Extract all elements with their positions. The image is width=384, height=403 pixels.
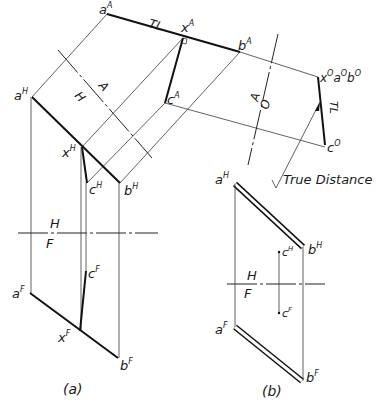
fold-label-h-b: H xyxy=(247,268,257,283)
projector-b-a-to-o xyxy=(240,52,318,77)
label-c-front-b: cF xyxy=(282,306,293,320)
label-c-top: cH xyxy=(89,181,102,197)
label-a-top-b: aH xyxy=(215,171,229,187)
label-b-top-b: bH xyxy=(308,241,322,257)
label-b-aux: bA xyxy=(238,37,252,53)
label-c-front: cF xyxy=(88,265,100,281)
fold-label-h-top: H xyxy=(50,216,60,231)
label-b-front: bF xyxy=(120,357,133,373)
line-ab-top-view-b-inner xyxy=(235,184,303,247)
caption-b: (b) xyxy=(262,383,282,399)
label-x-top: xH xyxy=(61,144,76,160)
label-x0a0b0: xOaObO xyxy=(319,69,361,85)
true-distance-label: True Distance xyxy=(283,172,373,187)
projector-c-h-to-a xyxy=(87,103,165,183)
label-b-top: bH xyxy=(124,182,138,198)
line-ab-front-view-b-inner xyxy=(235,327,302,381)
label-x-aux: xA xyxy=(180,19,194,35)
figure-b: H F aH bH cH cF aF bF (b) xyxy=(215,171,325,399)
point-c-top-b xyxy=(278,251,280,253)
fold-label-o: O xyxy=(257,98,273,111)
tl-label-top: TL xyxy=(147,16,164,33)
label-c-aux: cA xyxy=(167,91,180,107)
label-c-top-b: cH xyxy=(282,245,294,259)
label-a-top: aH xyxy=(14,87,28,103)
label-a-front-b: aF xyxy=(215,321,228,337)
line-xc-top-view xyxy=(82,147,87,183)
label-a-front: aF xyxy=(12,285,25,301)
fold-label-f-b: F xyxy=(244,286,252,301)
projector-b-h-to-a xyxy=(120,52,240,183)
label-b-front-b: bF xyxy=(306,369,319,385)
tl-label-right: TL xyxy=(327,101,340,114)
figure-a: A H A O TL TL True Distance H xyxy=(12,1,373,397)
line-ab-front-view xyxy=(30,293,118,358)
true-length-line-a xyxy=(107,14,240,52)
projector-a-h-to-a xyxy=(32,14,107,97)
true-distance-line xyxy=(318,77,325,145)
label-c0: cO xyxy=(327,139,340,155)
caption-a: (a) xyxy=(63,381,83,397)
fold-label-a: A xyxy=(95,78,112,94)
label-x-front: xF xyxy=(57,329,71,345)
line-ab-top-view xyxy=(32,97,120,183)
projector-c-a-to-o xyxy=(165,103,325,147)
descriptive-geometry-diagram: A H A O TL TL True Distance H xyxy=(0,0,384,403)
fold-line-h-a xyxy=(58,50,152,158)
point-c-front-b xyxy=(278,312,280,314)
fold-label-h: H xyxy=(72,89,88,105)
fold-label-f: F xyxy=(46,236,54,251)
